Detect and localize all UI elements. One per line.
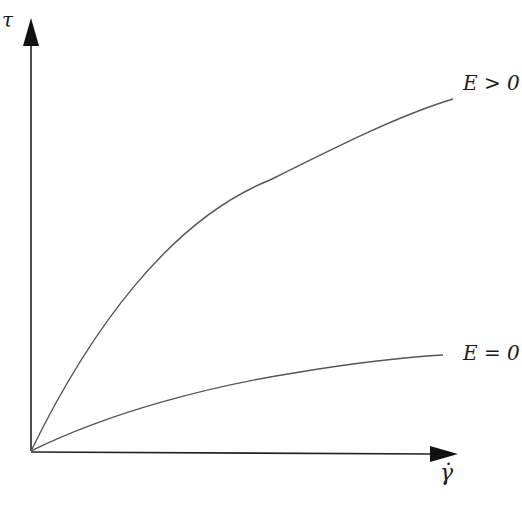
curve-label-e-positive: E > 0 xyxy=(463,71,520,95)
diagram-canvas xyxy=(0,0,522,509)
curve-e-positive xyxy=(31,99,453,451)
x-axis xyxy=(31,452,432,454)
y-axis-arrow-icon xyxy=(23,18,39,46)
curve-label-e-zero: E = 0 xyxy=(463,341,520,365)
x-axis-label: γ̇ xyxy=(440,460,453,485)
y-axis-label: τ xyxy=(2,8,13,32)
curve-e-zero xyxy=(31,355,443,451)
